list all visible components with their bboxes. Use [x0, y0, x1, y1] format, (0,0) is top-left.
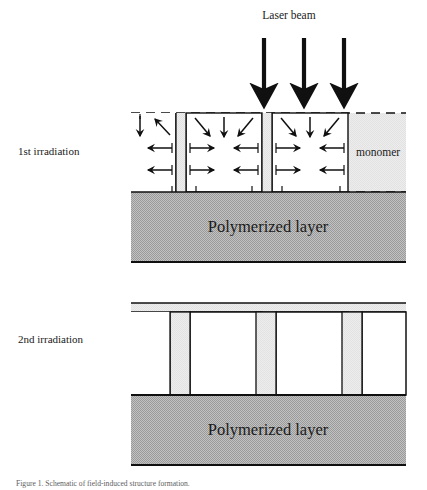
void-cavity-2: [276, 312, 348, 395]
polymerized-layer-label-top: Polymerized layer: [208, 217, 329, 236]
cell-1-body: [131, 113, 176, 192]
figure-container: Laser beam 1st irradiation monomer: [0, 0, 427, 490]
void-cavity-1: [190, 312, 262, 395]
pillar-3: [342, 312, 362, 395]
stage-label-first: 1st irradiation: [18, 145, 80, 157]
panel-first-irradiation: 1st irradiation monomer: [18, 113, 406, 262]
shrink-cell-2: [186, 113, 262, 192]
top-skin-layer: [131, 303, 406, 312]
figure-caption: Figure 1. Schematic of field-induced str…: [16, 479, 190, 488]
gap-column-1: [176, 113, 186, 192]
gap-column-2: [262, 113, 272, 192]
laser-beam-arrows: [264, 38, 344, 96]
pillar-2: [256, 312, 276, 395]
panel-second-irradiation: 2nd irradiation Polymerized layer: [18, 303, 406, 465]
shrink-cell-3: [272, 113, 348, 192]
pillar-edge-void-left: [131, 312, 170, 395]
shrink-cell-1: [131, 113, 176, 192]
stage-label-second: 2nd irradiation: [18, 333, 84, 345]
figure-illustration: Laser beam 1st irradiation monomer: [0, 0, 427, 490]
pillar-1: [170, 312, 190, 395]
void-cavity-3: [362, 312, 406, 395]
laser-beam-label: Laser beam: [262, 9, 315, 21]
polymerized-layer-label-bottom: Polymerized layer: [208, 420, 329, 439]
monomer-label: monomer: [356, 146, 400, 158]
laser-beam-group: Laser beam: [262, 9, 344, 96]
